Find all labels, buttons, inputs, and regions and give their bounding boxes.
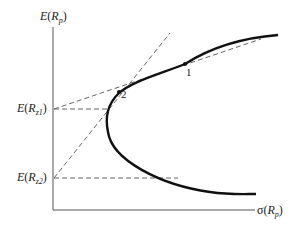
point-1-label: 1	[186, 67, 192, 78]
x-axis-label: σ(Rp)	[257, 204, 283, 219]
y-axis-label: E(Rp)	[40, 10, 67, 25]
tangent-line-ez2	[54, 33, 170, 178]
ez2-var: R	[28, 170, 35, 184]
y-label-var: R	[51, 9, 58, 23]
y-label-func: E	[40, 9, 47, 23]
ez2-func: E	[17, 170, 24, 184]
ez1-sub: z1	[36, 108, 43, 117]
ez1-var: R	[28, 101, 35, 115]
x-label-var: R	[267, 203, 274, 217]
ez2-sub: z2	[36, 177, 43, 186]
y-label-sub: p	[59, 16, 63, 25]
ez1-func: E	[17, 101, 24, 115]
ez2-label: E(Rz2)	[17, 171, 47, 186]
efficient-frontier-diagram: E(Rp) σ(Rp) E(Rz1) E(Rz2) 1 2	[0, 0, 301, 233]
x-label-sub: p	[275, 210, 279, 219]
ez1-label: E(Rz1)	[17, 102, 47, 117]
frontier-curve	[107, 35, 278, 194]
point-2-label: 2	[121, 89, 127, 100]
x-label-func: σ	[257, 203, 263, 217]
